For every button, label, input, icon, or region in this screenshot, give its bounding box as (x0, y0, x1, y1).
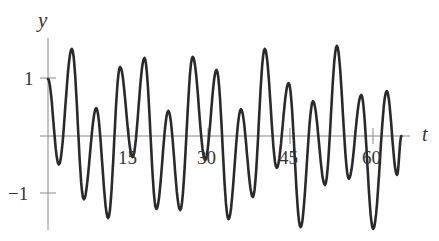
x-tick-label-15: 15 (118, 148, 137, 167)
x-tick-label-45: 45 (279, 148, 298, 167)
x-tick-label-60: 60 (362, 148, 381, 167)
y-tick-label-neg1: −1 (8, 184, 28, 203)
data-curve (48, 46, 401, 229)
x-tick-label-30: 30 (197, 148, 216, 167)
y-tick-label-1: 1 (24, 69, 34, 88)
x-axis-label: t (422, 124, 428, 144)
y-axis-label: y (38, 10, 47, 31)
line-chart (0, 0, 439, 241)
